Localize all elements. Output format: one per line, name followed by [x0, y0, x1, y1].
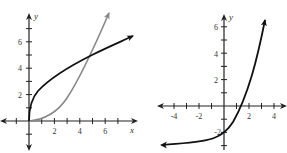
x-tick-label: -2 — [196, 112, 203, 121]
y-tick-label: 4 — [18, 64, 22, 73]
right-x-axis: -4 -2 2 4 — [157, 103, 287, 121]
y-tick-label: 6 — [214, 23, 218, 32]
x-tick-label: 2 — [247, 112, 251, 121]
y-tick-label: 6 — [18, 38, 22, 47]
figure-canvas: 2 4 6 x 2 4 6 y — [0, 0, 287, 153]
x-tick-label: 6 — [103, 127, 107, 136]
y-tick-label: 2 — [214, 76, 218, 85]
y-tick-label: 4 — [214, 50, 218, 59]
sqrt-curve — [29, 36, 133, 121]
x-tick-label: 4 — [78, 127, 82, 136]
x-tick-label: 2 — [52, 127, 56, 136]
x-tick-label: 4 — [272, 112, 276, 121]
right-graph: -4 -2 2 4 6 4 2 -2 y — [157, 12, 287, 150]
x-tick-label: -4 — [171, 112, 178, 121]
x-axis-label: x — [129, 125, 134, 135]
y-axis-label: y — [228, 12, 233, 22]
left-y-axis: 2 4 6 y — [18, 11, 38, 151]
right-y-axis: 6 4 2 -2 y — [214, 12, 233, 150]
y-axis-label: y — [33, 11, 38, 21]
left-graph: 2 4 6 x 2 4 6 y — [0, 11, 138, 151]
y-tick-label: 2 — [18, 91, 22, 100]
left-x-axis: 2 4 6 x — [0, 118, 138, 136]
